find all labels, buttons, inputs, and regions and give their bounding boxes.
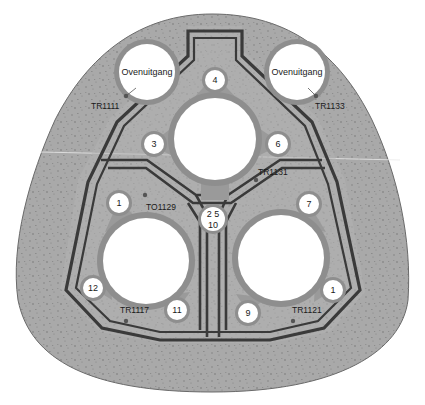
svg-text:11: 11 (172, 305, 181, 315)
svg-text:TR1133: TR1133 (315, 101, 345, 111)
exit-right-label: Ovenuitgang (271, 67, 322, 77)
bolt-1-right: 1 (320, 277, 346, 303)
bolt-6: 6 (265, 131, 291, 157)
bolt-7: 7 (296, 191, 322, 217)
exit-right: Ovenuitgang (264, 39, 330, 105)
exit-left: Ovenuitgang (114, 39, 180, 105)
bolt-4: 4 (202, 67, 228, 93)
svg-text:7: 7 (306, 199, 311, 209)
bolt-2-5-10: 2 5 10 (198, 204, 228, 234)
tunnel-cross-section-diagram: Ovenuitgang Ovenuitgang 4 3 (0, 0, 425, 405)
svg-text:TR1111: TR1111 (91, 101, 120, 111)
svg-text:12: 12 (88, 283, 98, 293)
svg-text:1: 1 (116, 198, 121, 208)
svg-text:TR1117: TR1117 (120, 305, 149, 315)
bolt-9: 9 (235, 300, 261, 326)
svg-text:2 5: 2 5 (207, 209, 220, 219)
svg-text:TR1131: TR1131 (258, 167, 288, 177)
svg-text:TO1129: TO1129 (146, 202, 176, 212)
svg-text:6: 6 (275, 139, 280, 149)
svg-text:9: 9 (245, 308, 250, 318)
bolt-11: 11 (164, 297, 190, 323)
svg-text:4: 4 (212, 75, 217, 85)
svg-text:TR1121: TR1121 (292, 305, 322, 315)
svg-text:1: 1 (330, 285, 335, 295)
bolt-1-left: 1 (106, 190, 132, 216)
bolt-3: 3 (141, 131, 167, 157)
bolt-12: 12 (80, 275, 106, 301)
svg-text:3: 3 (151, 139, 156, 149)
exit-left-label: Ovenuitgang (121, 67, 172, 77)
svg-text:10: 10 (208, 220, 218, 230)
